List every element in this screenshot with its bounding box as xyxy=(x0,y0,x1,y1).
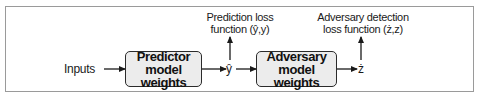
adversary-node-line1: Adversary xyxy=(267,50,327,63)
adversary-loss-line1: Adversary detection xyxy=(310,11,416,23)
predictor-model-weights-node: Predictor model weights xyxy=(125,51,202,87)
predictor-node-line1: Predictor xyxy=(137,50,190,63)
prediction-loss-line2: function (ŷ,y) xyxy=(196,23,284,35)
adversary-node-line2: model weights xyxy=(257,63,336,89)
y-hat-label: ŷ xyxy=(226,63,232,75)
predictor-node-line2: model weights xyxy=(126,63,201,89)
prediction-loss-line1: Prediction loss xyxy=(196,11,284,23)
adversary-loss-line2: loss function (ż,z) xyxy=(310,23,416,35)
z-hat-label: ż xyxy=(358,63,364,75)
adversary-loss-label: Adversary detection loss function (ż,z) xyxy=(310,11,416,35)
adversary-model-weights-node: Adversary model weights xyxy=(256,51,337,87)
prediction-loss-label: Prediction loss function (ŷ,y) xyxy=(196,11,284,35)
inputs-label: Inputs xyxy=(64,63,95,75)
